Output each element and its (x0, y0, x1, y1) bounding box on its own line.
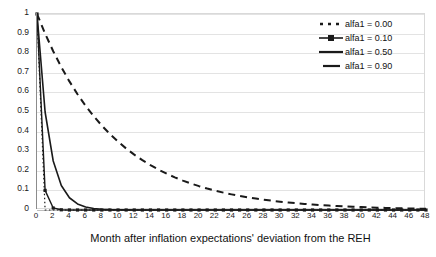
y-axis-tick-label: 0.4 (17, 126, 29, 135)
line-with-marker-sample (318, 32, 344, 44)
y-axis-tick-label: 1 (24, 8, 29, 17)
legend-item: alfa1 = 0.00 (318, 17, 422, 31)
y-axis-tick-labels: 00.10.20.30.40.50.60.70.80.91 (0, 0, 33, 209)
y-axis-tick-label: 0 (24, 204, 29, 213)
dashed-line-sample (318, 60, 344, 72)
y-axis-line (36, 13, 37, 209)
x-axis-tick-label: 32 (291, 211, 300, 221)
x-axis-tick-label: 20 (194, 211, 203, 221)
y-axis-tick-label: 0.8 (17, 47, 29, 56)
x-axis-tick-label: 28 (258, 211, 267, 221)
x-axis-tick-label: 26 (242, 211, 251, 221)
data-point-marker (44, 189, 47, 192)
legend-item-label: alfa1 = 0.10 (344, 32, 392, 44)
legend-item: alfa1 = 0.90 (318, 59, 422, 73)
x-axis-tick-label: 2 (50, 211, 54, 221)
x-axis-tick-label: 8 (99, 211, 103, 221)
data-point-marker (52, 206, 55, 209)
y-axis-tick-label: 0.5 (17, 106, 29, 115)
x-axis-tick-label: 12 (129, 211, 138, 221)
x-axis-tick-label: 30 (275, 211, 284, 221)
dotted-line-sample (318, 18, 344, 30)
decay-chart: 00.10.20.30.40.50.60.70.80.91 0246810121… (0, 0, 436, 257)
x-axis-tick-label: 4 (66, 211, 70, 221)
y-axis-tick-label: 0.3 (17, 145, 29, 154)
y-axis-tick-label: 0.9 (17, 28, 29, 37)
y-axis-tick-label: 0.2 (17, 165, 29, 174)
legend-item: alfa1 = 0.50 (318, 45, 422, 59)
x-axis-tick-label: 24 (226, 211, 235, 221)
y-axis-tick-label: 0.6 (17, 86, 29, 95)
x-axis-tick-label: 16 (161, 211, 170, 221)
x-axis-tick-label: 48 (421, 211, 430, 221)
x-axis-tick-label: 14 (145, 211, 154, 221)
x-axis-tick-label: 36 (323, 211, 332, 221)
x-axis-tick-label: 44 (388, 211, 397, 221)
x-axis-tick-label: 22 (210, 211, 219, 221)
legend-item-label: alfa1 = 0.90 (344, 60, 392, 72)
y-axis-tick-label: 0.1 (17, 184, 29, 193)
x-axis-tick-labels: 0246810121416182022242628303234363840424… (36, 211, 425, 225)
x-axis-title: Month after inflation expectations' devi… (36, 232, 425, 244)
x-axis-tick-label: 38 (340, 211, 349, 221)
legend-item: alfa1 = 0.10 (318, 31, 422, 45)
legend-item-label: alfa1 = 0.00 (344, 18, 392, 30)
x-axis-tick-label: 10 (113, 211, 122, 221)
x-axis-tick-label: 40 (356, 211, 365, 221)
x-axis-tick-label: 6 (82, 211, 86, 221)
x-axis-tick-label: 18 (177, 211, 186, 221)
x-axis-tick-label: 42 (372, 211, 381, 221)
x-axis-tick-label: 34 (307, 211, 316, 221)
x-axis-tick-label: 0 (34, 211, 38, 221)
solid-line-sample (318, 46, 344, 58)
chart-legend: alfa1 = 0.00alfa1 = 0.10alfa1 = 0.50alfa… (318, 17, 422, 73)
legend-item-label: alfa1 = 0.50 (344, 46, 392, 58)
x-axis-tick-label: 46 (404, 211, 413, 221)
y-axis-tick-label: 0.7 (17, 67, 29, 76)
